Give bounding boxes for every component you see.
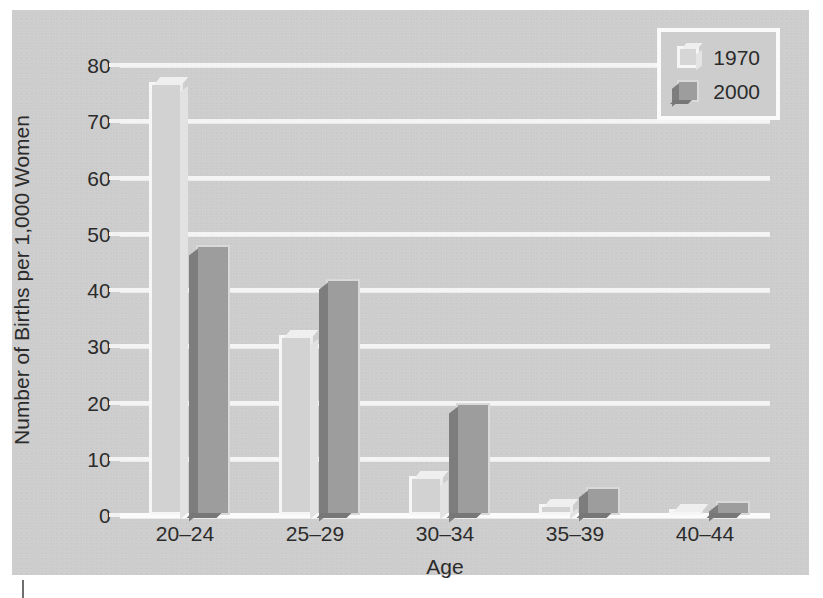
bar-1970-35-39 <box>539 504 573 515</box>
bar-2000-25-29 <box>326 279 360 515</box>
x-tick-label-30-34: 30–34 <box>416 522 474 546</box>
legend-label-2000: 2000 <box>713 81 760 102</box>
bar-1970-30-34 <box>409 476 443 515</box>
y-tick-label-80: 80 <box>87 55 111 76</box>
y-tick-50 <box>109 232 120 236</box>
y-tick-label-50: 50 <box>87 223 111 244</box>
y-tick-10 <box>109 457 120 461</box>
bar-2000-40-44 <box>716 501 750 515</box>
y-tick-0 <box>109 513 120 517</box>
legend-entry-1970: 1970 <box>671 40 760 74</box>
bar-1970-20-24 <box>149 82 183 515</box>
chart-figure: Number of Births per 1,000 Women 0102030… <box>12 10 809 575</box>
legend-entry-2000: 2000 <box>671 74 760 108</box>
chart-legend: 1970 2000 <box>657 28 780 120</box>
dark-3d-box-icon <box>677 80 699 102</box>
light-3d-box-icon <box>677 46 699 68</box>
y-tick-label-70: 70 <box>87 111 111 132</box>
x-axis-title: Age <box>120 555 770 579</box>
y-axis-title-label: Number of Births per 1,000 Women <box>10 115 34 445</box>
y-tick-label-10: 10 <box>87 448 111 469</box>
bar-2000-20-24 <box>196 245 230 515</box>
screenshot-root: Number of Births per 1,000 Women 0102030… <box>0 0 823 598</box>
legend-label-1970: 1970 <box>713 47 760 68</box>
x-tick-label-40-44: 40–44 <box>676 522 734 546</box>
y-tick-40 <box>109 288 120 292</box>
bar-2000-30-34 <box>456 403 490 516</box>
y-tick-60 <box>109 176 120 180</box>
bar-1970-40-44 <box>669 509 703 515</box>
y-tick-80 <box>109 63 120 67</box>
x-tick-label-35-39: 35–39 <box>546 522 604 546</box>
caption-rule <box>22 580 24 598</box>
y-tick-label-20: 20 <box>87 392 111 413</box>
y-tick-70 <box>109 119 120 123</box>
y-axis-tick-labels: 01020304050607080 <box>67 65 111 515</box>
y-tick-20 <box>109 401 120 405</box>
y-tick-label-60: 60 <box>87 167 111 188</box>
y-tick-label-40: 40 <box>87 280 111 301</box>
bar-1970-25-29 <box>279 335 313 515</box>
bar-2000-35-39 <box>586 487 620 515</box>
y-tick-30 <box>109 344 120 348</box>
x-tick-label-20-24: 20–24 <box>156 522 214 546</box>
x-tick-label-25-29: 25–29 <box>286 522 344 546</box>
y-axis-title: Number of Births per 1,000 Women <box>7 50 37 510</box>
y-tick-label-30: 30 <box>87 336 111 357</box>
